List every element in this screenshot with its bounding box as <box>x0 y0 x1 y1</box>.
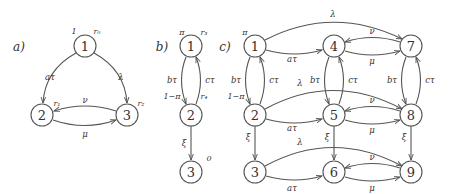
svg-text:3: 3 <box>251 165 259 180</box>
svg-text:1: 1 <box>251 39 259 54</box>
annotation: π <box>241 28 248 37</box>
panel-b: b) bτ cτ ξ 1 2 3 π r₃ 1−π r₄ 0 <box>156 28 215 184</box>
edge-c-9-6 <box>345 164 400 169</box>
edge-label: μ <box>369 183 375 193</box>
edge-c-5-4 <box>339 57 344 104</box>
edge-a-3-2 <box>54 106 116 111</box>
edge-c-4-7 <box>345 51 400 55</box>
node-c-6: 6 <box>323 161 345 183</box>
node-c-7: 7 <box>400 35 422 57</box>
edge-label: λ <box>296 137 302 147</box>
svg-text:5: 5 <box>330 108 338 123</box>
edge-c-2-1 <box>260 57 265 104</box>
panel-a: a) aτ λ ν μ 1 2 3 1 r₀ r₁ r₂ <box>13 27 144 140</box>
edge-label: ν <box>369 95 374 105</box>
annotation: 1 <box>71 27 76 36</box>
edge-label: λ <box>329 9 335 19</box>
edge-label: cτ <box>425 75 435 85</box>
node-a-1: 1 <box>74 35 96 57</box>
annotation: r₁ <box>53 99 60 108</box>
svg-text:7: 7 <box>407 39 415 54</box>
edge-label: cτ <box>269 75 279 85</box>
annotation: 1−π <box>163 92 181 101</box>
edge-label: aτ <box>287 54 297 64</box>
svg-text:3: 3 <box>123 108 131 123</box>
edge-label: aτ <box>45 72 55 82</box>
node-c-8: 8 <box>400 104 422 126</box>
markov-diagrams: a) aτ λ ν μ 1 2 3 1 r₀ r₁ r₂ b) <box>0 0 454 194</box>
annotation: r₄ <box>200 92 207 101</box>
edge-label: bτ <box>167 75 177 85</box>
edge-label: ν <box>369 26 374 36</box>
svg-text:9: 9 <box>407 165 415 180</box>
edge-label: μ <box>82 129 88 139</box>
node-c-5: 5 <box>323 104 345 126</box>
edge-c-7-8 <box>402 57 407 104</box>
node-c-9: 9 <box>400 161 422 183</box>
annotation: π <box>178 28 185 37</box>
edge-c-1-2 <box>246 57 251 104</box>
edge-label: ξ <box>182 138 188 148</box>
svg-text:2: 2 <box>187 108 195 123</box>
edge-label: μ <box>369 125 375 135</box>
edge-c-7-4 <box>345 38 400 43</box>
panel-c-label: c) <box>219 40 231 54</box>
edge-label: aτ <box>287 183 297 193</box>
svg-text:2: 2 <box>38 108 46 123</box>
edge-label: ξ <box>325 132 331 142</box>
node-b-1: 1 <box>180 35 202 57</box>
edge-c-5-8 <box>345 120 400 124</box>
edge-label: ξ <box>246 132 252 142</box>
edge-label: ν <box>82 95 87 105</box>
svg-text:4: 4 <box>330 39 338 54</box>
annotation: r₀ <box>93 27 101 36</box>
node-b-3: 3 <box>180 161 202 183</box>
edge-c-4-5 <box>325 57 330 104</box>
svg-text:8: 8 <box>407 108 415 123</box>
edge-b-1-2 <box>182 57 187 104</box>
edge-a-2-3 <box>53 120 116 126</box>
svg-text:2: 2 <box>251 108 259 123</box>
edge-label: bτ <box>387 75 397 85</box>
annotation: 0 <box>206 154 211 163</box>
node-c-4: 4 <box>323 35 345 57</box>
panel-a-label: a) <box>13 40 25 54</box>
node-b-2: 2 <box>180 104 202 126</box>
node-c-2: 2 <box>244 104 266 126</box>
annotation: r₃ <box>200 28 207 37</box>
edge-label: λ <box>117 72 123 82</box>
annotation: r₂ <box>137 99 144 108</box>
edge-label: bτ <box>310 75 320 85</box>
svg-text:3: 3 <box>187 165 195 180</box>
edge-label: cτ <box>348 75 358 85</box>
node-a-2: 2 <box>31 104 53 126</box>
node-a-3: 3 <box>116 104 138 126</box>
svg-text:1: 1 <box>81 39 89 54</box>
edge-label: ν <box>369 152 374 162</box>
panel-c: c) λ aτ ν μ λ aτ ν μ λ aτ ν μ bτ <box>219 9 435 193</box>
edge-label: μ <box>369 56 375 66</box>
edge-label: λ <box>296 78 302 88</box>
svg-text:6: 6 <box>330 165 338 180</box>
edge-label: ξ <box>402 132 408 142</box>
node-c-3: 3 <box>244 161 266 183</box>
panel-b-label: b) <box>156 40 169 54</box>
edge-label: cτ <box>205 75 215 85</box>
node-c-1: 1 <box>244 35 266 57</box>
edge-label: bτ <box>231 75 241 85</box>
edge-c-8-7 <box>416 57 421 104</box>
edge-c-3-6 <box>266 176 322 180</box>
svg-text:1: 1 <box>187 39 195 54</box>
edge-label: aτ <box>287 123 297 133</box>
edge-c-8-5 <box>345 107 400 112</box>
edge-c-6-9 <box>345 177 400 181</box>
annotation: 1−π <box>227 92 245 101</box>
